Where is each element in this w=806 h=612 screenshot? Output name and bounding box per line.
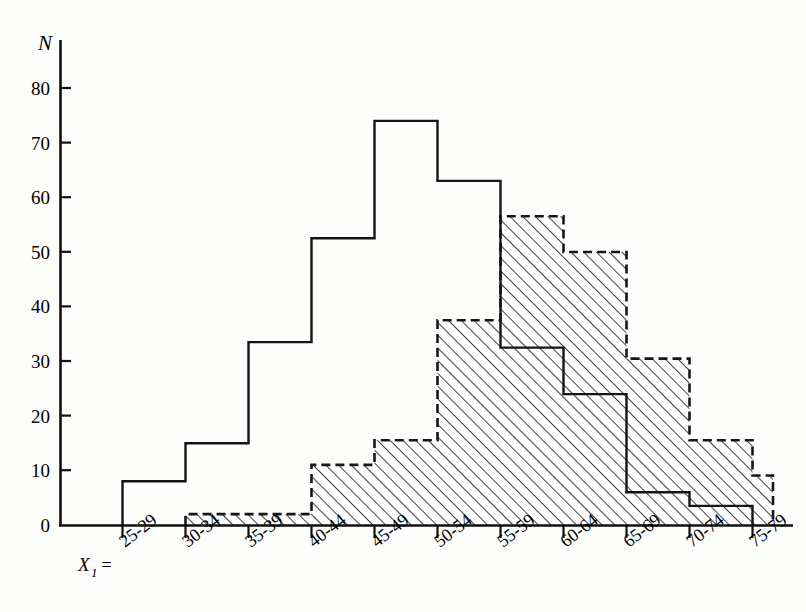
histogram-svg: N 80 70 60 50 40 30 20 10 0 X 1 = 25-29 …: [0, 0, 806, 612]
y-tick-label-10: 10: [31, 460, 50, 481]
y-tick-label-70: 70: [31, 133, 50, 154]
x-axis-variable-subscript: 1: [91, 565, 98, 580]
y-axis-title: N: [37, 31, 53, 55]
y-tick-label-50: 50: [31, 242, 50, 263]
x-axis-equals-sign: =: [100, 554, 113, 575]
y-tick-label-20: 20: [31, 406, 50, 427]
y-tick-label-0: 0: [41, 515, 51, 536]
histogram-figure: N 80 70 60 50 40 30 20 10 0 X 1 = 25-29 …: [0, 0, 806, 612]
y-tick-label-80: 80: [31, 78, 50, 99]
y-tick-label-40: 40: [31, 296, 50, 317]
y-tick-label-60: 60: [31, 187, 50, 208]
y-tick-label-30: 30: [31, 351, 50, 372]
x-axis-variable-name: X: [77, 554, 91, 575]
